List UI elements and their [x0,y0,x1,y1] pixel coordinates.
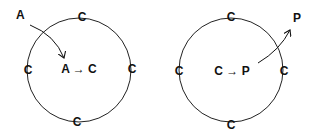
ring-label-top: C [78,10,87,24]
import-diagram: A C C C C A → C [16,8,137,129]
diagram-canvas: A C C C C A → C P C C C C C → P [0,0,316,136]
reaction-label: C → P [214,64,249,78]
ring-label-left: C [24,63,33,77]
ring-label-bottom: C [227,118,236,132]
ring-label-right: C [280,64,289,78]
ring-label-left: C [175,64,184,78]
ring-label-right: C [128,62,137,76]
ring-label-bottom: C [73,115,82,129]
outward-arrow [258,30,290,63]
outer-label: P [293,11,301,25]
outer-label: A [16,8,25,22]
export-diagram: P C C C C C → P [175,10,301,132]
reaction-label: A → C [61,62,97,76]
ring-label-top: C [227,10,236,24]
